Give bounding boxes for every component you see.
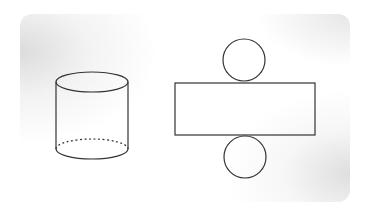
net-top-circle: [223, 39, 265, 81]
cylinder-bottom-hidden-arc: [56, 139, 128, 149]
cylinder-bottom-front-arc: [56, 149, 128, 159]
cylinder: [56, 72, 128, 159]
diagram-canvas: [0, 0, 368, 218]
cylinder-top-ellipse: [56, 72, 128, 92]
cylinder-net: [175, 39, 315, 178]
net-bottom-circle: [224, 136, 266, 178]
net-rectangle: [175, 83, 315, 135]
